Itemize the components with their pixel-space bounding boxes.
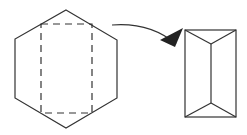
box-edge-tl: [185, 30, 211, 44]
arrow-head-icon: [160, 28, 183, 47]
dashed-inscribed-rectangle: [41, 24, 92, 113]
box-edge-br: [211, 103, 236, 117]
box-edge-bl: [185, 103, 211, 117]
diagram-canvas: [0, 0, 247, 135]
box-projection: [185, 30, 236, 117]
hexagon-shape: [15, 10, 117, 128]
box-edge-tr: [211, 30, 236, 44]
